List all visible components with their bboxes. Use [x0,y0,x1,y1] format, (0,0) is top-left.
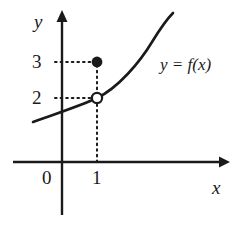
open-point [92,93,102,103]
x-axis-arrowhead [219,157,230,168]
x-axis-label: x [212,178,220,197]
filled-point [92,57,103,68]
y-axis-arrowhead [57,10,68,22]
y-tick-label-2: 2 [32,88,42,107]
y-axis-label: y [34,12,42,31]
graph-canvas [0,0,242,233]
function-graph-figure: y x 3 2 0 1 y = f(x) [0,0,242,233]
x-tick-label-1: 1 [92,168,102,187]
curve-label: y = f(x) [160,56,211,73]
function-curve [33,13,173,122]
y-tick-label-3: 3 [32,52,42,71]
x-axis [13,157,230,168]
x-tick-label-0: 0 [42,168,52,187]
